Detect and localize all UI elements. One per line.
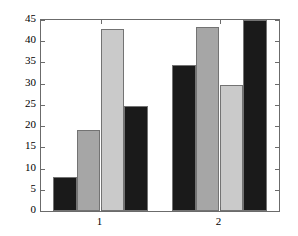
y-tick-mark	[41, 169, 45, 170]
y-tick-label: 40	[8, 34, 36, 45]
x-axis-tick-labels: 12	[40, 214, 280, 232]
x-tick-label: 2	[199, 214, 239, 228]
y-tick-mark	[41, 211, 45, 212]
y-tick-mark	[41, 105, 45, 106]
y-tick-label: 30	[8, 77, 36, 88]
x-tick-mark-top	[220, 20, 221, 24]
x-tick-mark	[101, 207, 102, 211]
y-tick-label: 10	[8, 162, 36, 173]
x-tick-mark-top	[101, 20, 102, 24]
y-tick-mark	[41, 126, 45, 127]
y-tick-label: 35	[8, 55, 36, 66]
x-tick-mark	[220, 207, 221, 211]
y-tick-mark	[41, 147, 45, 148]
y-tick-label: 20	[8, 119, 36, 130]
y-tick-mark	[41, 62, 45, 63]
y-tick-label: 25	[8, 98, 36, 109]
y-tick-mark	[41, 41, 45, 42]
y-tick-mark-right	[275, 169, 279, 170]
y-tick-mark-right	[275, 147, 279, 148]
y-tick-label: 45	[8, 13, 36, 24]
y-tick-mark	[41, 190, 45, 191]
x-tick-label: 1	[80, 214, 120, 228]
y-tick-mark-right	[275, 62, 279, 63]
y-tick-mark-right	[275, 190, 279, 191]
bar	[124, 106, 148, 211]
y-tick-mark	[41, 20, 45, 21]
y-tick-mark	[41, 84, 45, 85]
bar	[196, 27, 220, 211]
y-tick-mark-right	[275, 41, 279, 42]
bar	[101, 29, 125, 212]
plot-axes	[40, 19, 280, 212]
bar	[220, 85, 244, 211]
bar	[243, 20, 267, 211]
figure-canvas: 051015202530354045 12	[0, 0, 298, 236]
y-tick-label: 5	[8, 183, 36, 194]
y-tick-label: 15	[8, 140, 36, 151]
y-tick-mark-right	[275, 20, 279, 21]
y-tick-mark-right	[275, 126, 279, 127]
bar	[172, 65, 196, 211]
plot-area	[41, 20, 279, 211]
y-tick-mark-right	[275, 211, 279, 212]
y-tick-label: 0	[8, 204, 36, 215]
bar	[53, 177, 77, 211]
y-tick-mark-right	[275, 105, 279, 106]
y-tick-mark-right	[275, 84, 279, 85]
bar	[77, 130, 101, 211]
y-axis-tick-labels: 051015202530354045	[4, 19, 36, 212]
